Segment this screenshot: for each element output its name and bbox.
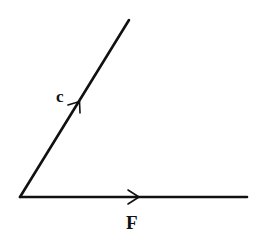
vector-f-label: F <box>126 212 138 233</box>
vector-c-label: c <box>56 87 64 106</box>
vector-diagram: c F <box>0 0 259 240</box>
vector-c-line <box>20 20 129 197</box>
